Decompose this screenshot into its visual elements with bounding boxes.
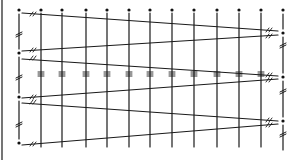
top-dot [60, 8, 63, 11]
left-post-dot [17, 95, 20, 98]
lacing-diagram [0, 0, 299, 160]
top-dot [127, 8, 130, 11]
top-dot [259, 8, 262, 11]
right-post [280, 8, 286, 150]
top-dot [170, 8, 173, 11]
top-dot [105, 8, 108, 11]
top-dot [39, 8, 42, 11]
right-post-dot [281, 75, 284, 78]
top-dot [237, 8, 240, 11]
top-dot [148, 8, 151, 11]
right-post-dot [281, 31, 284, 34]
left-post-dot [17, 8, 20, 11]
top-dot [84, 8, 87, 11]
left-post-dot [17, 51, 20, 54]
right-post-dot [281, 8, 284, 11]
vertical-lines [39, 8, 262, 147]
line-end-marks [30, 12, 272, 146]
left-post-dot [17, 141, 20, 144]
left-post [16, 8, 22, 144]
top-dot [215, 8, 218, 11]
right-post-dot [281, 119, 284, 122]
top-dot [192, 8, 195, 11]
